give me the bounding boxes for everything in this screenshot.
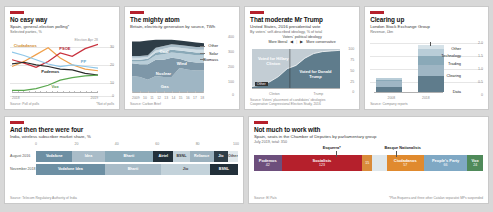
panel-title: That moderate Mr Trump xyxy=(250,16,354,23)
y-tick: 25 xyxy=(350,80,354,84)
panel-subtitle-2: Revenue, £bn xyxy=(370,30,483,34)
source-note: *Plus Esquerra and three other Catalan s… xyxy=(389,196,483,200)
red-tab-marker xyxy=(10,11,24,14)
y-tick: 1.5 xyxy=(478,54,483,58)
y-tick: 50 xyxy=(350,69,354,73)
bar-2008 xyxy=(376,78,402,92)
y-tick: 300 xyxy=(228,50,234,54)
scale-tick: 60 xyxy=(155,142,159,146)
card-trump-vote: That moderate Mr Trump United States, 20… xyxy=(244,6,360,110)
y-tick: 100 xyxy=(348,47,354,51)
area-label-clinton: Voted for Hillary Clinton xyxy=(257,57,289,67)
card-britain-electricity: The mighty atom Britain, electricity gen… xyxy=(124,6,240,110)
seat-value: 15 xyxy=(365,161,369,165)
seat-vox: Vox 24 xyxy=(467,155,483,171)
seat-podemos: Podemos 42 xyxy=(254,155,282,171)
x-axis-labels: Clinton Trump xyxy=(252,92,340,96)
source-row: Source: El País *Plus Esquerra and three… xyxy=(254,195,483,200)
red-tab-marker xyxy=(250,11,264,14)
card-india-telecom: And then there were four India, wireless… xyxy=(4,116,244,204)
segment-airtel: Airtel xyxy=(153,151,173,162)
y-tick: 75 xyxy=(350,58,354,62)
legend-row: More liberal ◀ | ▶ More conservative xyxy=(250,40,354,44)
cat-label-technology: Technology xyxy=(441,53,461,58)
source-text: Source: Poll of polls xyxy=(10,102,39,106)
cat-label-clearing: Clearing xyxy=(447,73,462,78)
x-tick: 15 xyxy=(179,96,183,100)
segment-reliance: Reliance xyxy=(190,151,214,162)
y-tick: 200 xyxy=(228,65,234,69)
seats-chart: Esquerra* Basque Nationalists Podemos 42… xyxy=(254,146,483,171)
source-row: Source: Poll of polls *Not of polls xyxy=(10,101,114,106)
callout-basque: Basque Nationalists xyxy=(385,146,421,150)
seat-others xyxy=(372,155,386,171)
x-axis-labels: 2008 2018 xyxy=(374,96,443,100)
panel-subtitle-2: Selected parties, % xyxy=(10,30,114,34)
scale-tick: 20 xyxy=(74,142,78,146)
y-tick: 0.5 xyxy=(478,80,483,84)
scale-tick: 40 xyxy=(115,142,119,146)
segment-other: Other xyxy=(228,151,238,162)
row-label: August 2016 xyxy=(10,154,36,158)
y-tick: 10 xyxy=(110,81,114,85)
scale-tick: 80 xyxy=(196,142,200,146)
arrow-right-icon: ▶ xyxy=(300,40,303,44)
segment-bsnl: BSNL xyxy=(210,164,238,175)
segment-vodafone: Vodafone xyxy=(36,151,72,162)
seat-esquerra: 15 xyxy=(362,155,372,171)
x-tick: 17 xyxy=(193,96,197,100)
y-tick: 0 xyxy=(352,90,354,94)
source-note: *Not of polls xyxy=(96,102,114,106)
source-text: Source: El País xyxy=(254,196,277,200)
seat-socialists: Socialists 123 xyxy=(282,155,363,171)
bars-area xyxy=(374,41,443,92)
series-label-ciudadanos: Ciudadanos xyxy=(14,43,37,48)
stack-label-wind: Wind xyxy=(177,61,187,66)
seats-stacked-bar: Podemos 42 Socialists 123 15 Ciudadanos … xyxy=(254,155,483,171)
series-label-podemos: Podemos xyxy=(41,69,59,74)
scale-tick: 100 xyxy=(233,142,239,146)
chart-grid-page: No easy way Spain, general-election poll… xyxy=(0,0,493,212)
panel-title: Not much to work with xyxy=(254,126,483,133)
seat-value: 42 xyxy=(266,163,270,167)
seat-ciudadanos: Ciudadanos 57 xyxy=(387,155,424,171)
card-lseg-revenue: Clearing up London Stock Exchange Group … xyxy=(364,6,489,110)
y-tick: 2.0 xyxy=(478,41,483,45)
line-chart-plot: Election Apr 28 30 20 10 0 Ciudadanos PS… xyxy=(10,37,114,101)
label-biomass: Biomass xyxy=(203,57,218,62)
x-axis-labels: 2018 2019 xyxy=(12,96,98,100)
segment-jio: Jio xyxy=(161,164,209,175)
x-tick: 13 xyxy=(164,96,168,100)
x-tick: 10 xyxy=(143,96,147,100)
source-note: Cooperative Congressional Election Study… xyxy=(250,102,354,106)
y-tick: 0 xyxy=(112,94,114,98)
bar-row-2018: November 2018 Vodafone Idea Bharti Jio B… xyxy=(10,164,238,175)
cat-label-trading: Trading xyxy=(448,61,461,66)
x-tick: 2019 xyxy=(91,96,99,100)
area-chart-plot: 400 300 200 100 0 Coal Win xyxy=(130,33,234,101)
x-axis-line xyxy=(12,92,98,93)
panel-subtitle-2: By voters' self-described ideology, % of… xyxy=(250,30,354,34)
stack-label-coal: Coal xyxy=(159,49,168,54)
seat-value: 66 xyxy=(444,163,448,167)
panel-subtitle-2: July 2019, total: 350 xyxy=(254,140,483,144)
arrow-left-icon: ◀ xyxy=(290,40,293,44)
y-tick: 30 xyxy=(110,45,114,49)
stacked-bar: Vodafone Idea Bharti Airtel BSNL Relianc… xyxy=(36,151,238,162)
series-label-pp: PP xyxy=(81,59,86,64)
panel-subtitle: India, wireless subscriber market share,… xyxy=(10,134,238,139)
segment-bsnl: BSNL xyxy=(173,151,189,162)
y-tick: 400 xyxy=(228,35,234,39)
y-tick: 100 xyxy=(228,80,234,84)
scale-axis: 0 20 40 60 80 100 xyxy=(36,142,238,149)
stacked-bar: Vodafone Idea Bharti Jio BSNL xyxy=(36,164,238,175)
area-label-trump: Voted for Donald Trump xyxy=(298,70,333,80)
legend-left-label: More liberal xyxy=(269,40,288,44)
stack-label-nuclear: Nuclear xyxy=(156,71,171,76)
seat-value: 123 xyxy=(319,163,325,167)
panel-title: The mighty atom xyxy=(130,16,234,23)
source-text: Source: Company reports xyxy=(370,101,483,106)
x-tick: 2009 xyxy=(132,96,140,100)
row-label: November 2018 xyxy=(10,167,36,171)
vote-split-area: Voted for Hillary Clinton Voted for Dona… xyxy=(252,49,340,88)
